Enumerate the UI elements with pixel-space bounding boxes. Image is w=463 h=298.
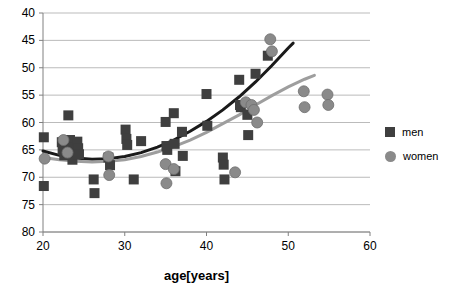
legend-label-men: men: [402, 126, 423, 138]
legend-square-marker-icon: [385, 127, 395, 137]
legend-item-women: women: [385, 144, 460, 168]
data-point-women: [248, 104, 259, 115]
y-tick-label-65: 55: [9, 89, 35, 101]
legend-circle-marker-icon: [385, 151, 396, 162]
y-tick-label-60: 60: [9, 117, 35, 129]
data-point-men: [136, 136, 146, 146]
data-point-women: [298, 86, 309, 97]
data-point-men: [63, 110, 73, 120]
data-point-women: [299, 102, 310, 113]
y-tick-label-75: 45: [9, 34, 35, 46]
x-axis-title: age[years]: [0, 268, 463, 283]
data-point-women: [168, 164, 179, 175]
data-point-men: [219, 174, 229, 184]
data-point-men: [251, 69, 261, 79]
data-point-men: [129, 174, 139, 184]
legend-label-women: women: [403, 150, 438, 162]
data-point-men: [219, 160, 229, 170]
data-point-women: [252, 117, 263, 128]
data-point-men: [202, 121, 212, 131]
data-point-women: [58, 135, 69, 146]
data-point-women: [62, 147, 73, 158]
data-point-men: [177, 127, 187, 137]
data-point-women: [104, 170, 115, 181]
data-points-group: [39, 34, 334, 198]
y-tick-label-50: 70: [9, 171, 35, 183]
data-point-women: [322, 89, 333, 100]
data-point-men: [121, 125, 131, 135]
x-tick-label-40: 40: [192, 240, 222, 252]
data-point-men: [74, 149, 84, 159]
chart-legend: men women: [385, 120, 460, 168]
data-point-women: [161, 178, 172, 189]
women-trend: [43, 75, 314, 162]
data-point-men: [178, 151, 188, 161]
data-point-men: [39, 181, 49, 191]
data-point-men: [169, 108, 179, 118]
data-point-women: [266, 46, 277, 57]
y-tick-label-45: 75: [9, 199, 35, 211]
y-tick-label-80: 40: [9, 7, 35, 19]
data-point-men: [90, 188, 100, 198]
data-point-women: [39, 153, 50, 164]
x-tick-label-20: 20: [28, 240, 58, 252]
y-tick-label-70: 50: [9, 62, 35, 74]
scatter-chart: 807570656055504540 2030405060 age[years]…: [0, 0, 463, 298]
data-point-women: [230, 167, 241, 178]
legend-item-men: men: [385, 120, 460, 144]
x-tick-label-50: 50: [273, 240, 303, 252]
x-tick-label-60: 60: [355, 240, 385, 252]
data-point-men: [39, 132, 49, 142]
data-point-women: [265, 34, 276, 45]
data-point-men: [161, 117, 171, 127]
data-point-men: [202, 89, 212, 99]
data-point-women: [323, 99, 334, 110]
data-point-men: [170, 139, 180, 149]
data-point-men: [234, 75, 244, 85]
data-point-women: [103, 151, 114, 162]
data-point-men: [243, 130, 253, 140]
x-tick-label-30: 30: [110, 240, 140, 252]
data-point-men: [89, 174, 99, 184]
y-tick-label-40: 80: [9, 226, 35, 238]
data-point-men: [122, 140, 132, 150]
y-tick-label-55: 65: [9, 144, 35, 156]
